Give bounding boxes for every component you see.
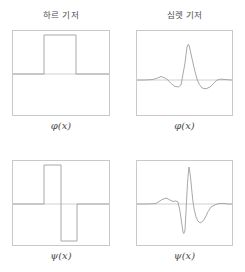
series-line: [137, 167, 232, 234]
haar-scaling-curve: [12, 30, 110, 116]
plot-symlet-wavelet: [136, 160, 233, 246]
plot-symlet-scaling: [136, 30, 233, 116]
symlet-wavelet-curve: [136, 160, 233, 246]
haar-wavelet-curve: [12, 160, 110, 246]
caption-symlet-wavelet: ψ(x): [136, 250, 233, 262]
caption-haar-scaling: φ(x): [12, 120, 110, 132]
wavelet-basis-figure: 하르 기저 심렛 기저 φ(x) φ(x) ψ(x) ψ(x): [0, 0, 245, 272]
series-line: [137, 44, 232, 88]
series-line: [13, 165, 109, 241]
plot-haar-wavelet: [12, 160, 110, 246]
column-title-symlet: 심렛 기저: [136, 10, 233, 21]
caption-haar-wavelet: ψ(x): [12, 250, 110, 262]
column-title-haar: 하르 기저: [12, 10, 110, 21]
series-line: [13, 35, 109, 74]
symlet-scaling-curve: [136, 30, 233, 116]
plot-haar-scaling: [12, 30, 110, 116]
caption-symlet-scaling: φ(x): [136, 120, 233, 132]
